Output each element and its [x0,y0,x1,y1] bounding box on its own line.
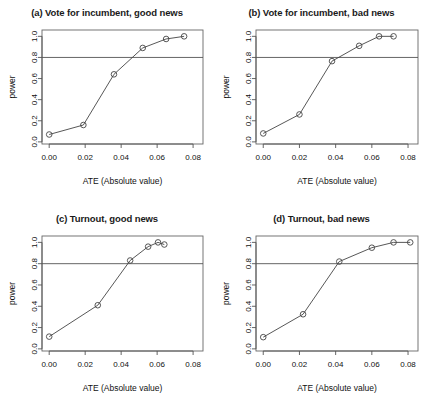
panel-b-plot: 0.00.20.40.60.81.00.000.020.040.060.08AT… [214,0,429,206]
panel-d: (d) Turnout, bad news 0.00.20.40.60.81.0… [214,206,429,413]
y-axis-label: power [221,282,231,305]
x-tick-label: 0.06 [149,360,165,369]
data-point-marker [260,334,266,340]
y-tick-label: 0.6 [30,72,39,84]
y-tick-label: 1.0 [30,30,39,42]
y-tick-label: 0.8 [30,258,39,270]
panel-b: (b) Vote for incumbent, bad news 0.00.20… [214,0,429,206]
y-axis-label: power [7,75,17,98]
x-tick-label: 0.06 [149,153,165,162]
plot-frame [256,30,418,144]
y-tick-label: 0.4 [244,300,253,312]
x-axis-label: ATE (Absolute value) [83,383,163,393]
panel-a-plot: 0.00.20.40.60.81.00.000.020.040.060.08AT… [0,0,214,206]
y-tick-label: 1.0 [30,236,39,248]
y-tick-label: 0.2 [30,115,39,127]
y-tick-label: 0.2 [244,115,253,127]
y-tick-label: 0.4 [30,94,39,106]
x-tick-label: 0.08 [185,153,201,162]
y-tick-label: 0.0 [30,343,39,355]
y-tick-label: 0.0 [244,136,253,148]
y-tick-label: 0.4 [30,300,39,312]
y-axis-label: power [221,75,231,98]
x-tick-label: 0.08 [400,153,416,162]
x-tick-label: 0.02 [77,153,93,162]
data-point-marker [162,242,168,248]
x-tick-label: 0.00 [255,360,271,369]
x-tick-label: 0.04 [328,153,344,162]
y-tick-label: 0.2 [244,321,253,333]
y-tick-label: 0.6 [244,279,253,291]
y-tick-label: 0.6 [244,72,253,84]
x-tick-label: 0.04 [113,153,129,162]
x-tick-label: 0.02 [292,360,308,369]
x-tick-label: 0.00 [41,360,57,369]
y-tick-label: 0.0 [244,343,253,355]
power-curve-line [49,242,164,336]
y-tick-label: 0.4 [244,94,253,106]
x-tick-label: 0.06 [364,153,380,162]
y-tick-label: 0.8 [30,51,39,63]
x-tick-label: 0.02 [77,360,93,369]
power-curve-line [263,36,393,133]
panel-d-plot: 0.00.20.40.60.81.00.000.020.040.060.08AT… [214,206,429,413]
y-tick-label: 1.0 [244,236,253,248]
panel-a: (a) Vote for incumbent, good news 0.00.2… [0,0,214,206]
x-tick-label: 0.08 [185,360,201,369]
x-tick-label: 0.00 [255,153,271,162]
y-axis-label: power [7,282,17,305]
panel-c-plot: 0.00.20.40.60.81.00.000.020.040.060.08AT… [0,206,214,413]
x-axis-label: ATE (Absolute value) [297,383,377,393]
plot-frame [42,30,203,144]
y-tick-label: 0.8 [244,258,253,270]
data-point-marker [260,131,266,137]
plot-frame [42,236,203,351]
y-tick-label: 0.0 [30,136,39,148]
x-tick-label: 0.02 [292,153,308,162]
x-tick-label: 0.08 [400,360,416,369]
plot-frame [256,236,418,351]
panel-c: (c) Turnout, good news 0.00.20.40.60.81.… [0,206,214,413]
y-tick-label: 0.2 [30,321,39,333]
x-axis-label: ATE (Absolute value) [83,176,163,186]
x-tick-label: 0.06 [364,360,380,369]
y-tick-label: 0.6 [30,279,39,291]
x-tick-label: 0.04 [328,360,344,369]
y-tick-label: 0.8 [244,51,253,63]
x-tick-label: 0.00 [41,153,57,162]
power-curve-line [49,36,184,134]
x-axis-label: ATE (Absolute value) [297,176,377,186]
y-tick-label: 1.0 [244,30,253,42]
power-curve-line [263,242,410,337]
power-curve-figure: (a) Vote for incumbent, good news 0.00.2… [0,0,429,413]
x-tick-label: 0.04 [113,360,129,369]
